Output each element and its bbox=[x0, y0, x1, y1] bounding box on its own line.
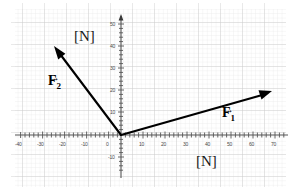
x-tick-label: 10 bbox=[139, 141, 144, 147]
y-tick-label: 40 bbox=[110, 43, 115, 49]
x-tick-label: -20 bbox=[59, 141, 66, 147]
x-tick-label: 70 bbox=[271, 141, 276, 147]
y-tick-label: -10 bbox=[108, 154, 115, 160]
plot-canvas bbox=[0, 0, 303, 187]
x-tick-label: 50 bbox=[227, 141, 232, 147]
y-axis-unit-label: [N] bbox=[74, 28, 95, 45]
y-tick-label: 20 bbox=[110, 87, 115, 93]
x-axis-unit-label: [N] bbox=[196, 153, 217, 170]
x-tick-label: -40 bbox=[15, 141, 22, 147]
vector-arrow-overbar-F1: → bbox=[223, 104, 234, 115]
x-tick-label: 60 bbox=[249, 141, 254, 147]
x-tick-label: 30 bbox=[183, 141, 188, 147]
x-tick-label: 40 bbox=[205, 141, 210, 147]
x-tick-label: 20 bbox=[161, 141, 166, 147]
force-vector-diagram: -40 -30 -20 -10 0 10 20 30 40 50 60 70 5… bbox=[0, 0, 303, 187]
x-tick-label: -10 bbox=[81, 141, 88, 147]
vector-label-F2: →F2 bbox=[48, 74, 61, 91]
y-tick-label: 30 bbox=[110, 65, 115, 71]
vector-label-F1: →F1 bbox=[222, 106, 235, 123]
major-gridlines bbox=[11, 3, 286, 187]
vector-arrow-overbar-F2: → bbox=[49, 72, 60, 83]
x-tick-label: 0 bbox=[106, 141, 109, 147]
x-tick-label: -30 bbox=[37, 141, 44, 147]
y-tick-label: 50 bbox=[110, 21, 115, 27]
y-tick-label: 10 bbox=[110, 109, 115, 115]
